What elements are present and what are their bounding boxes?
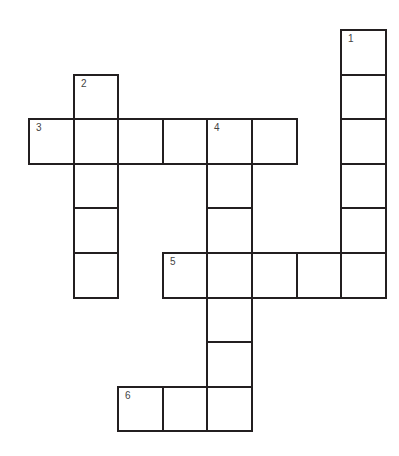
crossword-cell[interactable] (162, 386, 208, 432)
crossword-cell[interactable] (73, 118, 119, 165)
crossword-cell[interactable] (251, 118, 298, 165)
crossword-cell[interactable] (206, 341, 253, 388)
clue-number: 4 (214, 123, 220, 133)
crossword-cell[interactable] (73, 207, 119, 254)
crossword-cell[interactable]: 3 (28, 118, 75, 165)
crossword-cell[interactable] (206, 297, 253, 343)
crossword-cell[interactable] (340, 118, 387, 165)
crossword-cell[interactable]: 4 (206, 118, 253, 165)
clue-number: 6 (125, 391, 131, 401)
crossword-cell[interactable] (73, 163, 119, 209)
crossword-cell[interactable] (162, 118, 208, 165)
crossword-grid: 123456 (0, 0, 399, 456)
clue-number: 5 (170, 257, 176, 267)
crossword-cell[interactable]: 2 (73, 74, 119, 120)
crossword-cell[interactable] (206, 386, 253, 432)
crossword-cell[interactable]: 5 (162, 252, 208, 299)
crossword-cell[interactable] (206, 207, 253, 254)
crossword-cell[interactable] (251, 252, 298, 299)
crossword-cell[interactable] (340, 207, 387, 254)
crossword-cell[interactable] (73, 252, 119, 299)
clue-number: 1 (348, 34, 354, 44)
crossword-cell[interactable] (340, 252, 387, 299)
crossword-cell[interactable] (117, 118, 164, 165)
crossword-cell[interactable] (206, 252, 253, 299)
crossword-cell[interactable]: 1 (340, 29, 387, 76)
clue-number: 3 (36, 123, 42, 133)
crossword-cell[interactable] (340, 163, 387, 209)
crossword-cell[interactable] (296, 252, 342, 299)
crossword-cell[interactable] (340, 74, 387, 120)
crossword-cell[interactable]: 6 (117, 386, 164, 432)
crossword-cell[interactable] (206, 163, 253, 209)
clue-number: 2 (81, 79, 87, 89)
